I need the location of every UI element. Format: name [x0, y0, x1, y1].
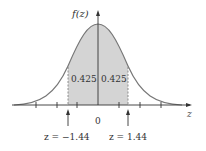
normal-distribution-diagram: f(z) z 0 0.425 0.425 z = −1.44 z = 1.44 — [0, 0, 206, 151]
left-bound-label: z = −1.44 — [44, 132, 90, 142]
y-axis-arrow-icon — [96, 10, 100, 16]
origin-label: 0 — [95, 116, 101, 126]
left-area-label: 0.425 — [71, 74, 97, 84]
y-axis-label: f(z) — [71, 8, 89, 19]
left-bound-arrow-icon — [66, 109, 70, 115]
x-axis-label: z — [186, 109, 192, 119]
x-axis-arrow-icon — [186, 103, 192, 107]
right-bound-label: z = 1.44 — [109, 132, 147, 142]
right-area-label: 0.425 — [101, 74, 127, 84]
right-bound-arrow-icon — [126, 109, 130, 115]
